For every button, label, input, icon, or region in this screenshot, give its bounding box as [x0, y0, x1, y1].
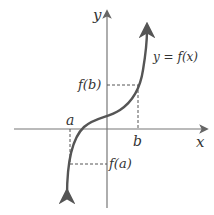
b-label: b: [133, 133, 142, 149]
y-axis-label: y: [92, 6, 102, 24]
curve-label: y = f(x): [152, 50, 198, 64]
fa-label: f(a): [108, 156, 132, 171]
fb-label: f(b): [77, 77, 101, 92]
a-label: a: [66, 112, 74, 128]
diagram: y x y = f(x) f(b) a b f(a): [0, 0, 214, 215]
x-axis-label: x: [196, 133, 205, 151]
